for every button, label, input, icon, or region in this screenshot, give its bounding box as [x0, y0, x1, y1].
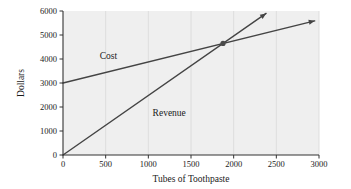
x-tick-label-2500: 2500 — [268, 159, 285, 169]
x-tick-label-2000: 2000 — [225, 159, 242, 169]
y-tick-label-0: 0 — [53, 150, 57, 160]
y-tick-label-1000: 1000 — [40, 126, 57, 136]
chart-figure: 050010001500200025003000 010002000300040… — [0, 0, 351, 189]
x-tick-label-500: 500 — [99, 159, 112, 169]
x-tick-label-0: 0 — [61, 159, 65, 169]
y-tick-label-4000: 4000 — [40, 54, 57, 64]
y-axis-ticks: 0100020003000400050006000 — [40, 6, 63, 160]
series-label-revenue: Revenue — [153, 108, 186, 118]
break-even-point — [220, 41, 225, 46]
y-tick-label-3000: 3000 — [40, 78, 57, 88]
x-tick-label-3000: 3000 — [311, 159, 328, 169]
x-tick-label-1000: 1000 — [140, 159, 157, 169]
y-tick-label-5000: 5000 — [40, 30, 57, 40]
y-axis-title: Dollars — [16, 69, 26, 97]
y-tick-label-6000: 6000 — [40, 6, 57, 16]
x-axis-ticks: 050010001500200025003000 — [61, 155, 328, 169]
annotation-markers — [220, 41, 225, 46]
x-tick-label-1500: 1500 — [183, 159, 200, 169]
x-axis-title: Tubes of Toothpaste — [153, 174, 230, 184]
series-label-cost: Cost — [100, 51, 118, 61]
y-tick-label-2000: 2000 — [40, 102, 57, 112]
break-even-line-chart: 050010001500200025003000 010002000300040… — [0, 0, 351, 189]
